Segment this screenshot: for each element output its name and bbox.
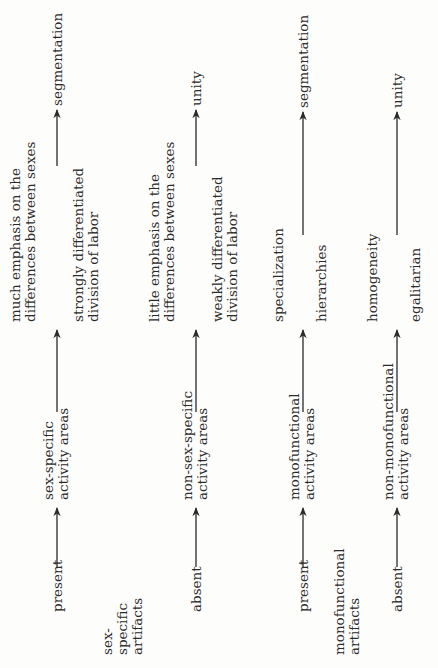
activity-line-2: activity areas [55,408,71,500]
upper-effect-line-1: little emphasis on the [146,174,162,322]
upper-effect-line-2: differences between sexes [161,141,177,322]
factor-monofunctional-artifacts: monofunctional artifacts [331,548,362,655]
outcome-label: segmentation [49,13,65,106]
factor-line-2: artifacts [346,598,362,655]
row-sex-specific-present: present sex-specific activity areas much… [7,13,101,612]
upper-effect: specialization [270,228,286,322]
factor-line-1: monofunctional [331,548,347,655]
activity-line-2: activity areas [395,408,411,500]
upper-effect: homogeneity [364,233,380,322]
row-monofunctional-absent: absent non-monofunctional activity areas… [364,73,423,612]
upper-effect-line-2: differences between sexes [22,141,38,322]
factor-sex-specific-artifacts: sex- specific artifacts [99,598,145,655]
activity-line-2: activity areas [301,408,317,500]
lower-effect-line-1: weakly differentiated [209,176,225,322]
activity-line-1: non-sex-specific [179,391,195,500]
condition-label: present [49,559,65,612]
condition-label: absent [188,566,204,612]
upper-effect-line-1: much emphasis on the [7,168,23,322]
diagram-canvas: present sex-specific activity areas much… [0,0,438,668]
row-sex-specific-absent: absent non-sex-specific activity areas l… [146,71,240,612]
lower-effect: hierarchies [313,244,329,322]
lower-effect: egalitarian [407,247,423,322]
activity-line-2: activity areas [194,408,210,500]
factor-line-3: artifacts [129,598,145,655]
outcome-label: unity [188,71,204,106]
activity-line-1: sex-specific [40,421,56,500]
factor-line-1: sex- [99,628,115,655]
factor-line-2: specific [114,603,130,655]
row-monofunctional-present: present monofunctional activity areas sp… [270,15,329,612]
lower-effect-line-1: strongly differentiated [70,168,86,322]
condition-label: absent [389,566,405,612]
condition-label: present [295,559,311,612]
lower-effect-line-2: division of labor [224,211,240,322]
activity-line-1: non-monofunctional [380,363,396,500]
outcome-label: segmentation [295,15,311,108]
lower-effect-line-2: division of labor [85,211,101,322]
activity-line-1: monofunctional [286,393,302,500]
outcome-label: unity [389,73,405,108]
